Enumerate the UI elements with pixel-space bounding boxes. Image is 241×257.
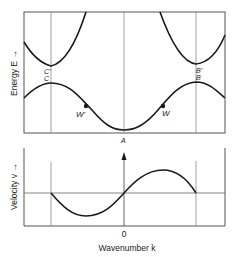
- label-b-prime: C: [44, 75, 50, 82]
- label-c: B': [196, 67, 203, 74]
- velocity-panel: Velocity v →: [9, 148, 225, 226]
- velocity-axis-arrow-icon: [122, 152, 127, 160]
- label-b: B: [196, 74, 201, 81]
- k-zero-tick: 0: [122, 229, 127, 239]
- band-diagram: W' W A C' C B' B Energy E → Velocity v →…: [0, 0, 241, 257]
- label-w-prime: W': [76, 110, 86, 119]
- upper-band-right: [160, 12, 225, 64]
- x-axis-label: Wavenumber k: [99, 243, 157, 253]
- label-a: A: [120, 137, 126, 144]
- energy-axis-label: Energy E →: [9, 50, 19, 96]
- label-w: W: [162, 109, 171, 118]
- lower-band: [24, 82, 225, 130]
- velocity-axis-label: Velocity v →: [9, 163, 19, 210]
- point-w-prime: [84, 104, 88, 108]
- label-c-prime: C': [44, 68, 51, 75]
- point-w: [161, 104, 165, 108]
- upper-band-left: [24, 12, 86, 66]
- energy-frame: [24, 12, 225, 133]
- energy-panel: W' W A C' C B' B Energy E →: [9, 12, 225, 144]
